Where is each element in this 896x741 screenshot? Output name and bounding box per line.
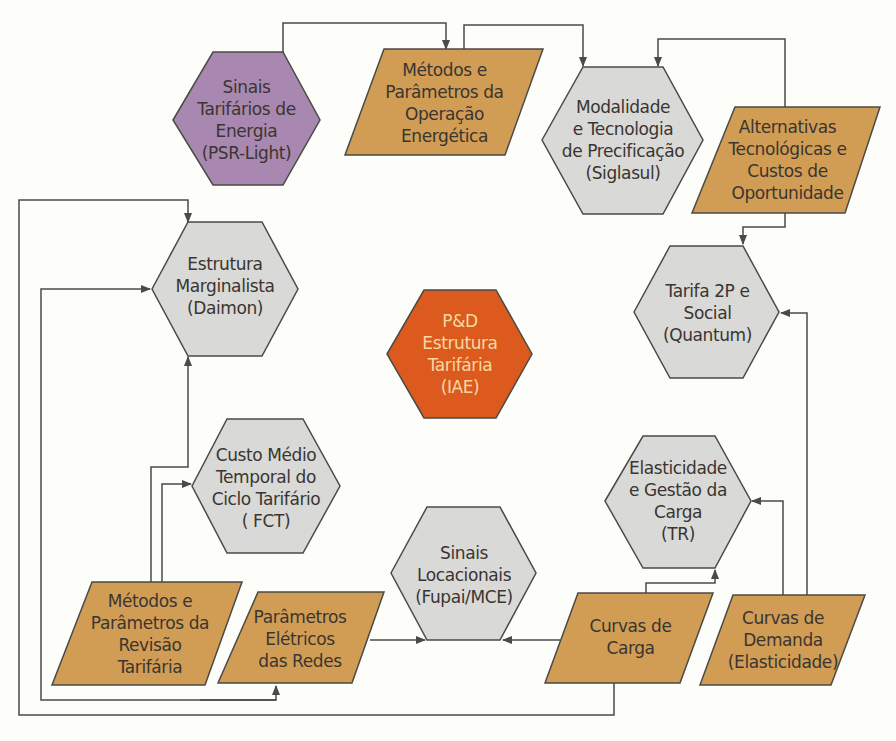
diagram-svg xyxy=(0,0,896,741)
connector-curvas-demanda-to-elasticidade xyxy=(752,501,783,595)
node-curvas-carga-parallelogram xyxy=(545,593,713,683)
node-sinais-tarifarios-hex xyxy=(173,52,320,185)
connector-loop-to-parametros xyxy=(200,686,276,700)
node-elasticidade-hex xyxy=(605,436,751,568)
connector-sinais-to-metodos-operacao xyxy=(283,23,446,52)
node-alternativas-parallelogram xyxy=(692,107,880,213)
connector-curvas-carga-to-elasticidade xyxy=(646,570,715,593)
node-modalidade-hex xyxy=(542,67,703,214)
node-estrutura-marginalista-hex xyxy=(152,222,298,356)
connector-metodos-revisao-to-custo xyxy=(162,484,191,582)
diagram-canvas: Sinais Tarifários de Energia (PSR-Light)… xyxy=(0,0,896,741)
node-tarifa-2p-hex xyxy=(634,246,779,378)
node-center-hex xyxy=(387,290,532,418)
node-metodos-revisao-parallelogram xyxy=(52,582,242,685)
node-metodos-operacao-parallelogram xyxy=(345,49,543,155)
connector-alternativas-to-tarifa xyxy=(743,213,785,244)
node-curvas-demanda-parallelogram xyxy=(700,595,865,685)
node-sinais-locacionais-hex xyxy=(391,507,536,640)
node-parametros-eletricos-parallelogram xyxy=(218,592,384,683)
node-custo-medio-hex xyxy=(192,419,340,553)
connector-curvas-demanda-to-tarifa xyxy=(781,313,807,595)
connector-metodos-revisao-to-estrutura xyxy=(151,357,188,582)
